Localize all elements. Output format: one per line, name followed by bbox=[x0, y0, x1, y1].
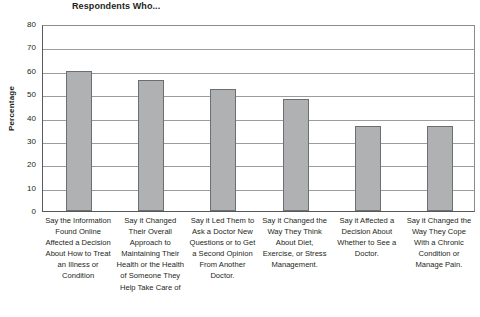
y-tick-label: 80 bbox=[6, 20, 36, 29]
bar-chart: Respondents Who... Percentage 0102030405… bbox=[0, 0, 480, 317]
bar bbox=[283, 99, 309, 211]
x-category-label: Say it Led Them to Ask a Doctor New Ques… bbox=[186, 215, 258, 317]
y-tick-label: 20 bbox=[6, 160, 36, 169]
y-tick-label: 30 bbox=[6, 137, 36, 146]
y-tick-label: 60 bbox=[6, 67, 36, 76]
bar bbox=[138, 80, 164, 211]
y-tick-label: 10 bbox=[6, 184, 36, 193]
y-tick-label: 70 bbox=[6, 43, 36, 52]
x-axis-category-labels: Say the Information Found Online Affecte… bbox=[42, 215, 475, 317]
y-tick-label: 40 bbox=[6, 114, 36, 123]
y-tick-label: 0 bbox=[6, 207, 36, 216]
bar bbox=[355, 126, 381, 211]
bar bbox=[66, 71, 92, 211]
x-category-label: Say it Affected a Decision About Whether… bbox=[331, 215, 403, 317]
plot-area bbox=[42, 25, 475, 212]
y-tick-label: 50 bbox=[6, 90, 36, 99]
bar-series bbox=[43, 26, 474, 211]
bar bbox=[210, 89, 236, 211]
x-category-label: Say it Changed the Way They Cope With a … bbox=[403, 215, 475, 317]
bar bbox=[427, 126, 453, 211]
x-category-label: Say it Changed the Way They Think About … bbox=[259, 215, 331, 317]
x-category-label: Say it Changed Their Overall Approach to… bbox=[114, 215, 186, 317]
x-category-label: Say the Information Found Online Affecte… bbox=[42, 215, 114, 317]
